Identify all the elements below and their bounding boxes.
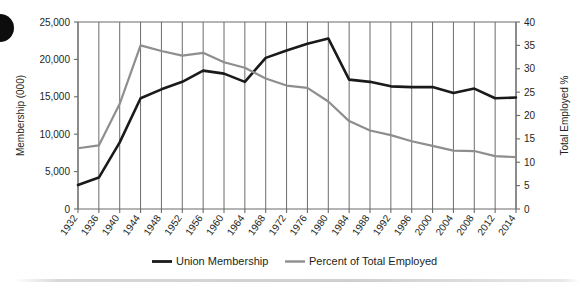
x-axis-tick-label: 1940: [100, 212, 122, 237]
x-axis-tick-label: 1956: [183, 212, 205, 237]
x-axis-tick-label: 1968: [246, 212, 268, 237]
chart-figure: 05,00010,00015,00020,00025,0000510152025…: [0, 0, 588, 285]
series-line-percent-total-employed: [78, 45, 516, 157]
y2-axis-tick-label: 30: [524, 63, 536, 74]
x-axis-tick-label: 2004: [433, 212, 455, 237]
y-axis-tick-label: 25,000: [39, 17, 70, 28]
x-axis-tick-label: 1988: [350, 212, 372, 237]
y2-axis-tick-label: 15: [524, 133, 536, 144]
y-axis-tick-label: 15,000: [39, 91, 70, 102]
x-axis-tick-label: 1948: [141, 212, 163, 237]
x-axis-tick-label: 1984: [329, 212, 351, 237]
x-axis-tick-label: 2012: [475, 212, 497, 237]
x-axis-tick-label: 1976: [287, 212, 309, 237]
x-axis-tick-label: 1992: [371, 212, 393, 237]
legend-label-percent-total-employed: Percent of Total Employed: [309, 255, 437, 267]
line-chart: 05,00010,00015,00020,00025,0000510152025…: [0, 0, 588, 285]
page-edge-shadow: [14, 279, 580, 282]
x-axis-tick-label: 1960: [204, 212, 226, 237]
y-axis-tick-label: 5,000: [45, 166, 70, 177]
x-axis-tick-label: 1932: [58, 212, 80, 237]
y2-axis-tick-label: 10: [524, 157, 536, 168]
x-axis-tick-label: 2008: [454, 212, 476, 237]
y2-axis-tick-label: 25: [524, 87, 536, 98]
series-line-union-membership: [78, 38, 516, 185]
x-axis-tick-label: 1936: [79, 212, 101, 237]
x-axis-tick-label: 1944: [120, 212, 142, 237]
x-axis-tick-label: 1980: [308, 212, 330, 237]
y2-axis-title: Total Employed %: [559, 75, 570, 155]
y2-axis-tick-label: 5: [524, 180, 530, 191]
y-axis-tick-label: 20,000: [39, 54, 70, 65]
y-axis-title: Membership (000): [15, 75, 26, 156]
x-axis-tick-label: 2014: [496, 212, 518, 237]
y2-axis-tick-label: 40: [524, 17, 536, 28]
legend-label-union-membership: Union Membership: [176, 255, 268, 267]
x-axis-tick-label: 1952: [162, 212, 184, 237]
y2-axis-tick-label: 35: [524, 40, 536, 51]
x-axis-tick-label: 1964: [225, 212, 247, 237]
y-axis-tick-label: 10,000: [39, 129, 70, 140]
y2-axis-tick-label: 0: [524, 204, 530, 215]
x-axis-tick-label: 1996: [392, 212, 414, 237]
y2-axis-tick-label: 20: [524, 110, 536, 121]
x-axis-tick-label: 1972: [266, 212, 288, 237]
x-axis-tick-label: 2000: [412, 212, 434, 237]
